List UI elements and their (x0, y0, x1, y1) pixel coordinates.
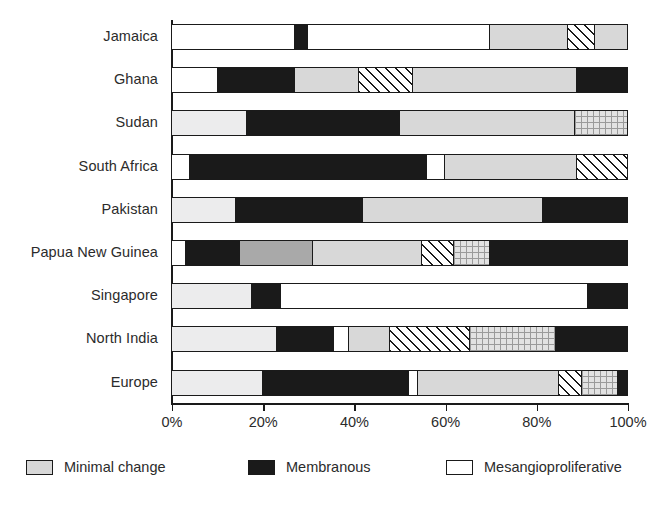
x-axis-tick-label: 100% (609, 414, 646, 430)
bar-singapore (172, 283, 628, 309)
legend-label: Minimal change (64, 459, 166, 475)
chart-legend: Minimal changeMembranousMesangioprolifer… (26, 455, 626, 485)
bar-segment (413, 68, 577, 92)
bar-segment (172, 68, 218, 92)
bar-segment (295, 68, 359, 92)
plot-area: 0%20%40%60%80%100% (172, 20, 628, 403)
x-axis-tick-label: 20% (249, 414, 278, 430)
x-axis-tick-label: 0% (162, 414, 183, 430)
bar-segment (445, 155, 577, 179)
bar-segment (409, 371, 418, 395)
bar-segment (575, 111, 627, 135)
bar-segment (577, 68, 627, 92)
category-label-south-africa: South Africa (0, 158, 158, 174)
bar-segment (172, 371, 263, 395)
legend-label: Membranous (286, 459, 371, 475)
legend-item-mesangioproliferative: Mesangioproliferative (446, 455, 622, 479)
bar-segment (172, 284, 252, 308)
x-axis-line (171, 403, 629, 405)
bar-pakistan (172, 197, 628, 223)
legend-swatch-minimal-change (26, 460, 53, 475)
x-axis-tick (263, 404, 264, 411)
bar-sudan (172, 110, 628, 136)
bar-segment (252, 284, 282, 308)
bar-segment (418, 371, 559, 395)
legend-swatch-mesangioproliferative (446, 460, 473, 475)
bar-segment (186, 241, 241, 265)
bar-jamaica (172, 24, 628, 50)
bar-segment (363, 198, 543, 222)
x-axis-tick-label: 60% (431, 414, 460, 430)
bar-segment (390, 327, 470, 351)
bar-segment (172, 198, 236, 222)
bar-segment (295, 25, 309, 49)
bar-segment (470, 327, 556, 351)
bar-segment (277, 327, 334, 351)
bar-segment (582, 371, 618, 395)
bar-segment (263, 371, 409, 395)
bar-segment (236, 198, 363, 222)
bar-segment (454, 241, 490, 265)
bar-segment (490, 25, 567, 49)
legend-swatch-membranous (248, 460, 275, 475)
bar-segment (400, 111, 575, 135)
bar-segment (349, 327, 390, 351)
x-axis-tick (537, 404, 538, 411)
category-label-pakistan: Pakistan (0, 201, 158, 217)
category-label-ghana: Ghana (0, 71, 158, 87)
bar-segment (313, 241, 422, 265)
bar-segment (218, 68, 295, 92)
bar-segment (556, 327, 627, 351)
bar-segment (543, 198, 627, 222)
category-label-europe: Europe (0, 374, 158, 390)
bar-europe (172, 370, 628, 396)
bar-segment (172, 111, 247, 135)
x-axis-tick (172, 404, 173, 411)
legend-item-membranous: Membranous (248, 455, 371, 479)
category-label-jamaica: Jamaica (0, 28, 158, 44)
bar-segment (559, 371, 582, 395)
bar-segment (190, 155, 427, 179)
bar-segment (172, 241, 186, 265)
bar-north-india (172, 326, 628, 352)
bar-ghana (172, 67, 628, 93)
category-label-papua-new-guinea: Papua New Guinea (0, 244, 158, 260)
bar-papua-new-guinea (172, 240, 628, 266)
x-axis-tick-label: 80% (522, 414, 551, 430)
bar-segment (490, 241, 627, 265)
x-axis-tick (354, 404, 355, 411)
bar-segment (422, 241, 454, 265)
bar-segment (172, 327, 277, 351)
category-axis-labels: JamaicaGhanaSudanSouth AfricaPakistanPap… (0, 20, 166, 403)
bar-segment (595, 25, 627, 49)
bar-segment (172, 25, 295, 49)
bar-segment (588, 284, 627, 308)
bar-segment (618, 371, 627, 395)
x-axis-tick (446, 404, 447, 411)
bar-segment (577, 155, 627, 179)
bar-south-africa (172, 154, 628, 180)
bar-segment (359, 68, 414, 92)
legend-label: Mesangioproliferative (484, 459, 622, 475)
bar-segment (172, 155, 190, 179)
legend-item-minimal-change: Minimal change (26, 455, 166, 479)
bar-segment (427, 155, 445, 179)
category-label-singapore: Singapore (0, 287, 158, 303)
category-label-sudan: Sudan (0, 114, 158, 130)
bar-segment (247, 111, 399, 135)
bar-segment (281, 284, 588, 308)
bar-segment (568, 25, 595, 49)
bar-segment (334, 327, 350, 351)
x-axis-tick (628, 404, 629, 411)
category-label-north-india: North India (0, 330, 158, 346)
x-axis-tick-label: 40% (340, 414, 369, 430)
bar-segment (240, 241, 313, 265)
bar-segment (308, 25, 490, 49)
